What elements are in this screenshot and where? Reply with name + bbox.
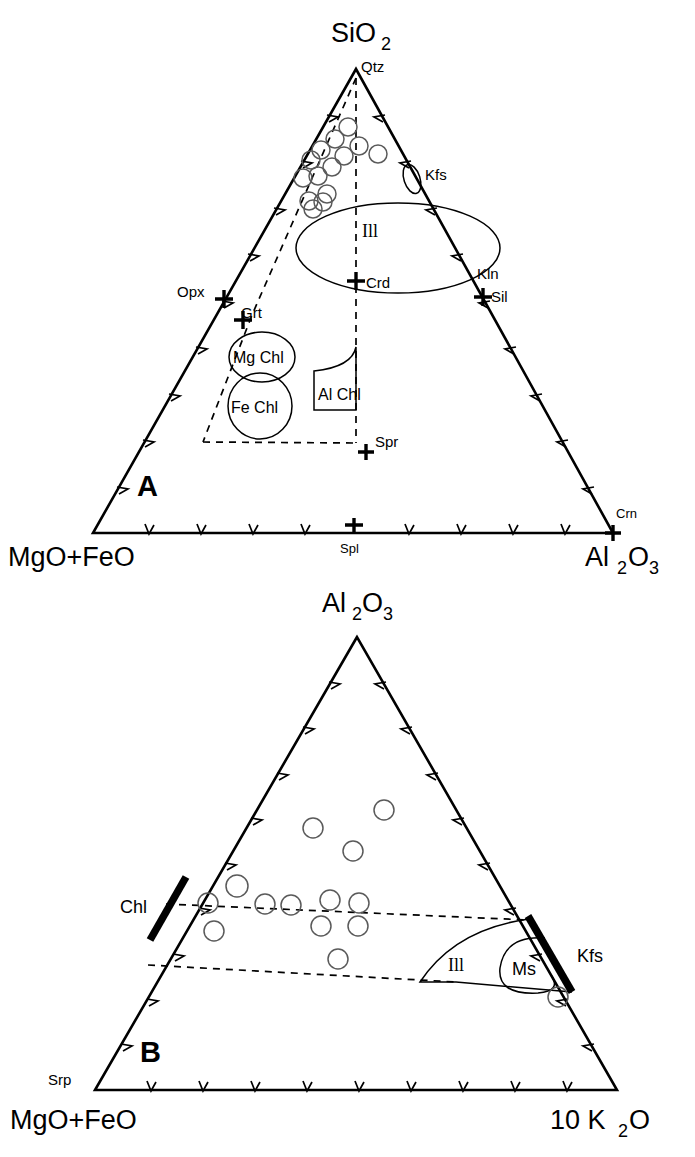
panel-a-field-ill: Ill	[362, 221, 378, 241]
panel-a-label-sil: Sil	[491, 288, 508, 305]
panel-b-label-chl: Chl	[120, 897, 147, 917]
panel-b-apex-label-sub2: 3	[383, 604, 393, 624]
panel-a-label-grt: Grt	[241, 304, 263, 321]
panel-b-chl-segment	[150, 877, 186, 940]
panel-b-right-vertex-main: 10 K	[550, 1105, 606, 1135]
panel-b-field-ill: Ill	[448, 955, 464, 975]
panel-b-label-kfs: Kfs	[577, 946, 603, 966]
panel-a-label-spl: Spl	[340, 541, 359, 556]
panel-a-label-kln: Kln	[477, 265, 499, 282]
panel-b-left-edge-ticks	[121, 682, 340, 1051]
figure-root: SiO 2 MgO+FeO Al 2 O 3 Qtz Opx Kfs Kln S…	[0, 0, 695, 1157]
panel-a-field-mg-chl: Mg Chl	[233, 349, 284, 366]
panel-a-ill-field	[296, 203, 500, 293]
panel-b-label-srp: Srp	[48, 1071, 71, 1088]
panel-b-left-vertex-label: MgO+FeO	[10, 1105, 137, 1135]
panel-a-apex-label-sub: 2	[381, 34, 391, 54]
panel-b-letter: B	[140, 1036, 161, 1068]
panel-a-field-al-chl: Al Chl	[318, 386, 361, 403]
panel-a-group: SiO 2 MgO+FeO Al 2 O 3 Qtz Opx Kfs Kln S…	[8, 18, 659, 578]
panel-b-right-vertex-sub: 2	[618, 1121, 628, 1141]
panel-b-apex-label-sub1: 2	[352, 604, 362, 624]
panel-b-kfs-segment	[528, 916, 572, 992]
panel-b-field-ms: Ms	[512, 959, 536, 979]
panel-a-letter: A	[137, 470, 158, 502]
panel-b-apex-label-main: Al	[322, 588, 346, 618]
panel-a-label-spr: Spr	[375, 433, 398, 450]
panel-b-apex-label-mid: O	[362, 588, 383, 618]
panel-a-kfs-field	[400, 162, 424, 195]
panel-a-right-vertex-label: Al	[585, 542, 609, 572]
panel-a-label-opx: Opx	[177, 283, 205, 300]
panel-a-label-kfs: Kfs	[425, 166, 447, 183]
panel-a-data-points	[294, 118, 387, 218]
panel-a-left-edge-ticks	[117, 115, 338, 494]
panel-a-right-vertex-sub1: 2	[617, 558, 627, 578]
panel-a-right-vertex-sub2: 3	[649, 558, 659, 578]
ternary-diagram-figure: SiO 2 MgO+FeO Al 2 O 3 Qtz Opx Kfs Kln S…	[0, 0, 695, 1157]
panel-a-label-crn: Crn	[616, 506, 637, 521]
panel-a-field-fe-chl: Fe Chl	[231, 399, 278, 416]
panel-b-right-edge-ticks	[375, 682, 594, 1051]
panel-b-group: Al 2 O 3 MgO+FeO 10 K 2 O Chl Kfs Srp Il…	[10, 588, 650, 1141]
panel-a-label-qtz: Qtz	[361, 58, 384, 75]
panel-a-label-crd: Crd	[366, 274, 390, 291]
panel-a-right-vertex-mid: O	[628, 542, 649, 572]
panel-b-right-vertex-tail: O	[629, 1105, 650, 1135]
panel-a-apex-label: SiO	[331, 18, 376, 48]
panel-b-dashed-fields	[148, 904, 528, 982]
panel-b-triangle	[95, 637, 617, 1090]
panel-a-left-vertex-label: MgO+FeO	[8, 542, 135, 572]
